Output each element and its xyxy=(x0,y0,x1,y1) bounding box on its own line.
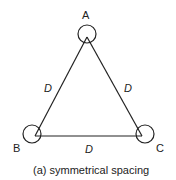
conductor-c-circle xyxy=(136,125,154,143)
side-label-ab: D xyxy=(44,82,52,94)
conductor-b-circle xyxy=(23,125,41,143)
vertex-label-b: B xyxy=(13,142,20,154)
side-label-ac: D xyxy=(124,82,132,94)
side-ac xyxy=(87,37,142,136)
side-label-bc: D xyxy=(85,143,93,155)
side-ab xyxy=(35,37,87,136)
figure-caption: (a) symmetrical spacing xyxy=(33,164,149,176)
conductor-a-circle xyxy=(78,25,96,43)
vertex-label-a: A xyxy=(82,9,90,21)
vertex-label-c: C xyxy=(156,142,164,154)
triangle-diagram: A B C D D D (a) symmetrical spacing xyxy=(0,0,176,180)
